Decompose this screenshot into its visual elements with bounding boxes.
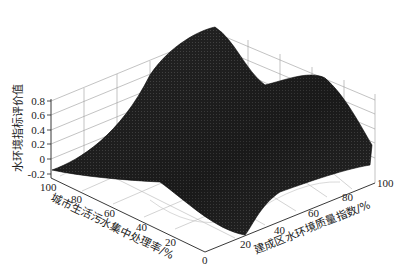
y-axis-label: 城市生活污水集中处理率/% <box>49 190 177 262</box>
z-axis-label: 水环境指标评价值 <box>11 84 25 172</box>
z-tick-label: 0.6 <box>31 109 45 121</box>
x-tick-label: 20 <box>240 238 252 250</box>
z-tick-label: 0.8 <box>31 95 45 107</box>
x-tick-label: 80 <box>342 191 354 203</box>
z-tick-label: -0.2 <box>28 168 45 180</box>
z-tick-label: 0.2 <box>31 138 45 150</box>
z-ticks <box>47 101 51 174</box>
surface-plot: 0.8 0.6 0.4 0.2 0 -0.2 100 80 60 40 20 0… <box>0 0 402 273</box>
z-tick-label: 0 <box>40 153 46 165</box>
z-tick-label: 0.4 <box>31 124 45 136</box>
x-tick-label: 0 <box>202 254 208 266</box>
x-tick-label: 100 <box>377 177 394 189</box>
